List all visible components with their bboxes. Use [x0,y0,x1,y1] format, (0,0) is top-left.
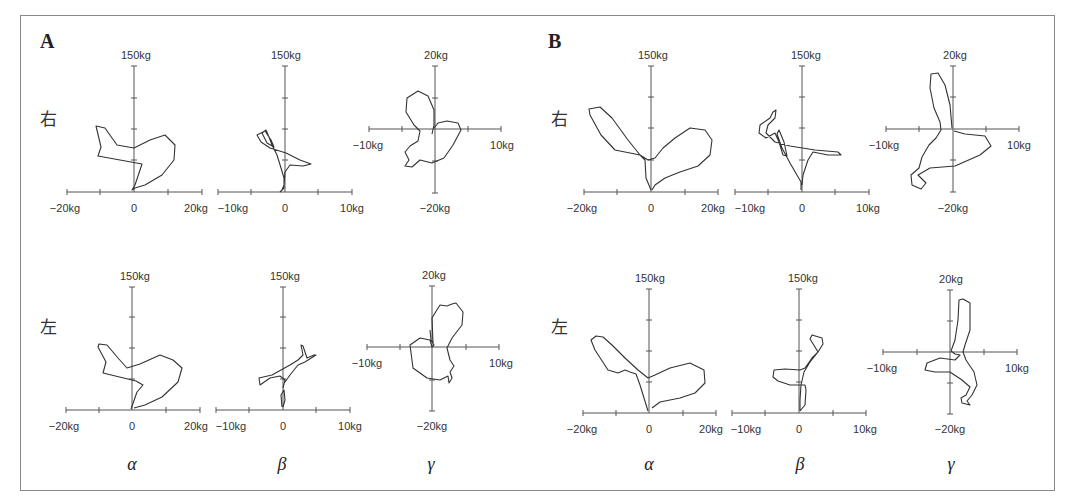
y-min-label: −20kg [420,202,450,214]
y-max-label: 150kg [635,272,665,284]
y-max-label: 150kg [791,49,821,61]
y-max-label: 20kg [422,269,446,281]
row-label-right-b: 右 [551,109,568,129]
y-max-label: 150kg [121,49,151,61]
y-max-label: 20kg [943,49,967,61]
figure: A B 右 左 右 左 150kg −20kg 0 20kg 150kg −10 [0,0,1069,501]
y-max-label: 150kg [120,270,150,282]
x-min-label: −10kg [869,139,899,151]
origin-label: 0 [796,423,802,435]
x-max-label: 10kg [489,357,513,369]
row-label-left-b: 左 [551,317,568,337]
chart-b-left-beta: 150kg −10kg 0 10kg [731,272,877,435]
x-min-label: −10kg [867,362,897,374]
origin-label: 0 [648,202,654,214]
x-min-label: −10kg [731,423,761,435]
y-max-label: 150kg [788,272,818,284]
origin-label: 0 [799,202,805,214]
x-max-label: 10kg [1007,139,1031,151]
chart-b-right-beta: 150kg −10kg 0 10kg [735,49,880,214]
x-min-label: −20kg [567,202,597,214]
x-max-label: 10kg [853,423,877,435]
x-max-label: 10kg [338,420,362,432]
column-label-alpha-b: α [644,454,654,474]
y-max-label: 20kg [424,49,448,61]
x-min-label: −20kg [49,420,79,432]
chart-a-right-alpha: 150kg −20kg 0 20kg [50,49,208,214]
x-min-label: −10kg [218,202,248,214]
panel-label-b: B [548,30,561,52]
chart-a-left-alpha: 150kg −20kg 0 20kg [49,270,208,432]
chart-b-right-gamma: 20kg −10kg 10kg −20kg [869,49,1031,214]
x-min-label: −10kg [352,357,382,369]
y-max-label: 150kg [638,49,668,61]
origin-label: 0 [646,423,652,435]
column-label-gamma-b: γ [947,454,955,474]
x-max-label: 20kg [184,202,208,214]
x-min-label: −20kg [567,423,597,435]
x-max-label: 20kg [701,202,725,214]
chart-b-left-gamma: 20kg −10kg 10kg −20kg [867,273,1029,435]
x-min-label: −10kg [216,420,246,432]
y-min-label: −20kg [938,202,968,214]
x-max-label: 20kg [699,423,723,435]
origin-label: 0 [280,420,286,432]
chart-a-left-beta: 150kg −10kg 0 10kg [216,270,362,432]
x-max-label: 10kg [340,202,364,214]
column-label-beta-b: β [795,454,805,474]
panel-label-a: A [40,30,55,52]
x-max-label: 10kg [490,139,514,151]
x-max-label: 10kg [856,202,880,214]
chart-a-right-gamma: 20kg −10kg 10kg −20kg [353,49,514,214]
chart-b-right-alpha: 150kg 0 −20kg 0 20kg [567,49,725,214]
y-max-label: 150kg [271,49,301,61]
x-min-label: −20kg [50,202,80,214]
x-min-label: −10kg [735,202,765,214]
x-max-label: 20kg [184,420,208,432]
chart-a-right-beta: 150kg −10kg 0 10kg [218,49,364,214]
origin-label: 0 [129,420,135,432]
chart-a-left-gamma: 20kg −10kg 10kg −20kg [352,269,513,432]
y-min-label: −20kg [935,423,965,435]
origin-label: 0 [282,202,288,214]
y-max-label: 150kg [270,270,300,282]
column-label-beta-a: β [277,454,287,474]
y-max-label: 20kg [939,273,963,285]
y-min-label: −20kg [417,420,447,432]
x-min-label: −10kg [353,139,383,151]
row-label-right-a: 右 [40,109,57,129]
origin-label: 0 [131,202,137,214]
row-label-left-a: 左 [40,317,57,337]
column-label-gamma-a: γ [427,454,435,474]
chart-b-left-alpha: 150kg −20kg 0 20kg [567,272,723,435]
column-label-alpha-a: α [127,454,137,474]
x-max-label: 10kg [1005,362,1029,374]
